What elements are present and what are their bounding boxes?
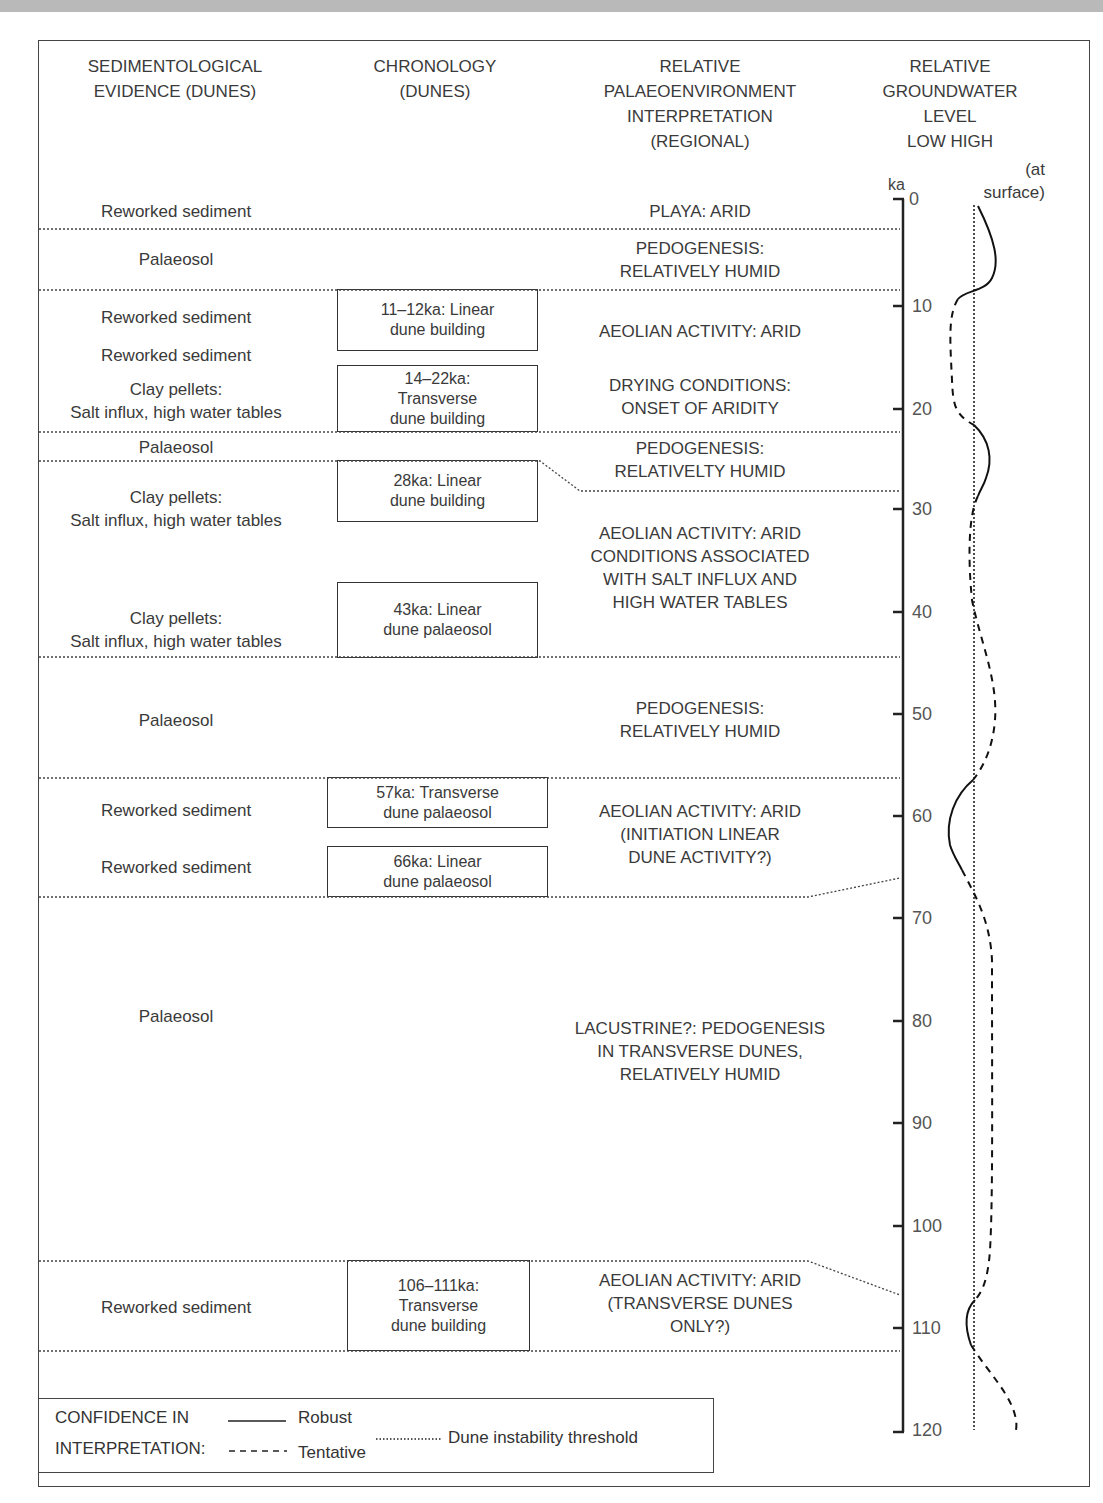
age-axis [893, 199, 904, 1432]
diagram-lines [0, 0, 1103, 1503]
groundwater-curve-robust [949, 206, 996, 1345]
legend-threshold-label: Dune instability threshold [448, 1428, 638, 1448]
boundary-lines [39, 229, 900, 1351]
legend-tentative-label: Tentative [298, 1443, 366, 1463]
legend: CONFIDENCE IN INTERPRETATION: Robust Ten… [38, 1398, 714, 1473]
legend-robust-label: Robust [298, 1408, 352, 1428]
